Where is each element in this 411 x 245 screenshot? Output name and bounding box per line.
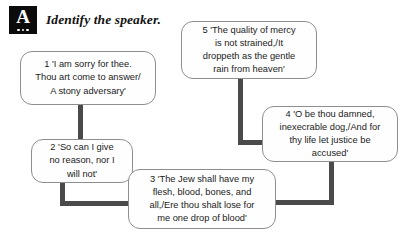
l4: rain from heaven' bbox=[213, 64, 285, 74]
quote-box-1-text: 1 1 'I am sorry for thee. 1 'I am sorry … bbox=[35, 58, 140, 98]
connector-3-to-4-vertical bbox=[329, 161, 334, 205]
l2: flesh, blood, bones, and bbox=[153, 187, 252, 197]
l2: no reason, nor I bbox=[49, 155, 114, 165]
connector-3-to-4-horizontal bbox=[270, 200, 334, 205]
quote-box-5-text: 5 'The quality of mercy is not strained,… bbox=[202, 24, 295, 77]
quote-box-5[interactable]: 5 'The quality of mercy is not strained,… bbox=[181, 21, 317, 79]
quote-box-3[interactable]: 3 'The Jew shall have my flesh, blood, b… bbox=[128, 169, 276, 229]
l3: all,/Ere thou shalt lose for bbox=[150, 200, 255, 210]
l1: 4 'O be thou damned, bbox=[285, 109, 374, 119]
l3: thy life let justice be bbox=[289, 135, 370, 145]
l2: inexecrable dog,/And for bbox=[280, 122, 381, 132]
quote-box-4-text: 4 'O be thou damned, inexecrable dog,/An… bbox=[280, 108, 381, 161]
l1: 3 'The Jew shall have my bbox=[150, 174, 254, 184]
connector-1-to-2 bbox=[78, 104, 83, 140]
l4: me one drop of blood' bbox=[157, 213, 247, 223]
quote-box-2-text: 2 'So can I give no reason, nor I will n… bbox=[49, 141, 114, 181]
quote-box-1[interactable]: 1 1 'I am sorry for thee. 1 'I am sorry … bbox=[20, 51, 156, 105]
l3: will not' bbox=[67, 169, 97, 179]
quote-box-4[interactable]: 4 'O be thou damned, inexecrable dog,/An… bbox=[262, 106, 398, 162]
l3: A stony adversary' bbox=[50, 86, 126, 96]
diagram-canvas: A Identify the speaker. 1 1 'I am sorry … bbox=[0, 0, 411, 245]
quote-box-2[interactable]: 2 'So can I give no reason, nor I will n… bbox=[31, 139, 133, 183]
quote-box-1-body: 1 'I am sorry for thee. Thou art come to… bbox=[35, 59, 140, 95]
connector-2-to-3-horizontal bbox=[60, 201, 134, 206]
l4: accused' bbox=[312, 148, 348, 158]
l3: droppeth as the gentle bbox=[203, 51, 296, 61]
l2: is not strained,/It bbox=[215, 38, 283, 48]
quote-box-3-text: 3 'The Jew shall have my flesh, blood, b… bbox=[150, 173, 255, 226]
l1: 1 'I am sorry for thee. bbox=[44, 59, 132, 69]
l2: Thou art come to answer/ bbox=[35, 72, 140, 82]
l1: 5 'The quality of mercy bbox=[202, 25, 295, 35]
l1: 2 'So can I give bbox=[50, 142, 113, 152]
connector-5-to-4-vertical bbox=[238, 78, 243, 145]
